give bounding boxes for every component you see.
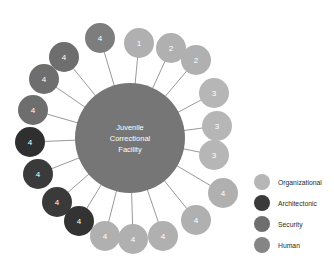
edge-link [46,114,78,123]
edge-link [152,61,165,89]
spoke-node-label: 1 [137,39,142,48]
spoke-node[interactable]: 4 [148,221,178,251]
edge-link [86,184,101,209]
legend-item-label: Organizational [278,179,322,187]
legend-item-label: Architectonic [278,200,318,207]
spoke-node[interactable]: 1 [124,28,154,58]
legend-item[interactable]: Security [254,216,303,232]
spoke-node-label: 4 [31,106,36,115]
spoke-node-label: 3 [215,122,220,131]
spoke-node-label: 4 [131,235,136,244]
spoke-node-label: 4 [221,189,226,198]
spoke-node[interactable]: 4 [181,205,211,235]
spoke-node[interactable]: 4 [18,95,48,125]
spoke-node-label: 3 [212,89,217,98]
spoke-node[interactable]: 3 [199,140,229,170]
spoke-node-label: 2 [194,56,199,65]
edge-link [132,192,133,225]
spoke-node[interactable]: 4 [15,127,45,157]
diagram-canvas: JuvenileCorrectionalFacility 41223334444… [0,0,334,277]
spoke-node-label: 4 [194,216,199,225]
spoke-node[interactable]: 4 [49,42,79,72]
spoke-node-label: 4 [161,232,166,241]
edge-link [164,180,187,209]
edge-link [183,149,200,153]
legend-swatch-icon [254,174,270,190]
spoke-node-label: 4 [36,170,41,179]
edge-link [176,165,210,185]
spoke-node-label: 3 [212,151,217,160]
legend-swatch-icon [254,237,270,253]
hub-label-line: Facility [118,145,142,154]
edge-link [135,57,138,84]
legend-swatch-icon [254,195,270,211]
spoke-node[interactable]: 4 [42,187,72,217]
edge-link [51,158,80,169]
legend-item[interactable]: Architectonic [254,195,318,211]
legend-item[interactable]: Human [254,237,300,253]
spoke-node[interactable]: 4 [118,224,148,254]
spoke-node-label: 4 [98,34,103,43]
edge-link [68,174,90,193]
edge-link [56,87,86,108]
spoke-node[interactable]: 3 [202,111,232,141]
spoke-node-label: 4 [28,138,33,147]
edge-link [147,189,158,223]
spoke-node-label: 4 [62,53,67,62]
network-diagram: JuvenileCorrectionalFacility 41223334444… [0,0,334,277]
edge-link [108,190,116,222]
edge-link [44,140,76,141]
hub-label-line: Correctional [110,134,151,143]
legend-item-label: Security [278,221,303,229]
edge-link [104,51,114,86]
edge-link [178,100,202,113]
spoke-node[interactable]: 4 [208,178,238,208]
hub-label-line: Juvenile [116,123,144,132]
spoke-node[interactable]: 4 [23,159,53,189]
legend: OrganizationalArchitectonicSecurityHuman [254,174,322,253]
legend-swatch-icon [254,216,270,232]
spoke-node-label: 4 [103,232,108,241]
hub-layer: JuvenileCorrectionalFacility [75,83,185,193]
spoke-node-label: 4 [77,217,82,226]
spoke-node-label: 4 [55,198,60,207]
spoke-node[interactable]: 4 [90,221,120,251]
legend-item-label: Human [278,242,300,249]
edge-link [73,68,96,96]
edge-link [183,128,203,131]
legend-item[interactable]: Organizational [254,174,322,190]
spoke-node[interactable]: 3 [199,78,229,108]
spoke-node-label: 2 [169,44,174,53]
spoke-node[interactable]: 4 [85,23,115,53]
spoke-node-label: 4 [42,75,47,84]
edge-link [165,71,187,97]
spoke-node[interactable]: 2 [181,45,211,75]
